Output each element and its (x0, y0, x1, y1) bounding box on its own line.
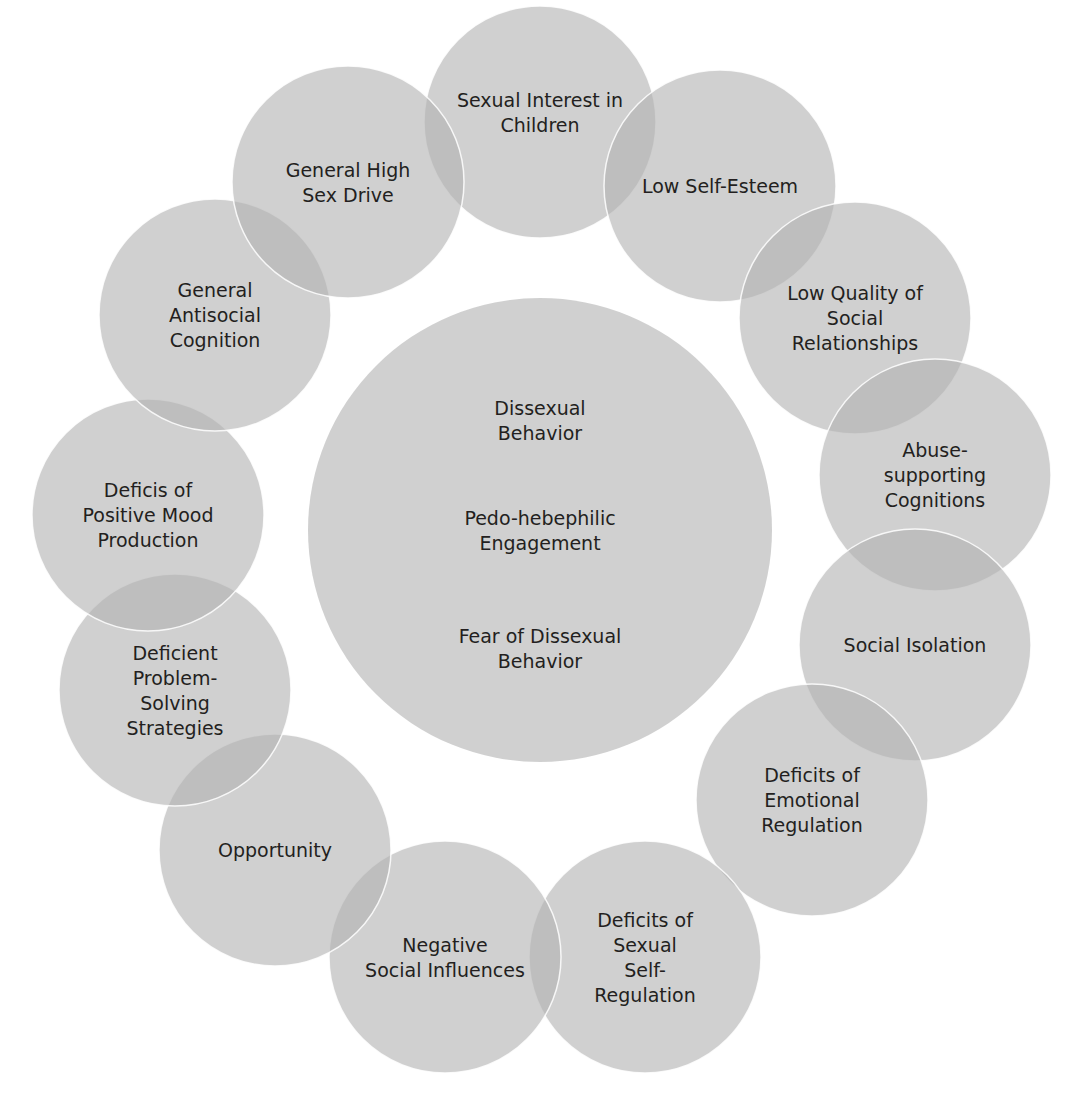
factor-label-general-antisocial-cognition: Cognition (170, 329, 261, 351)
factor-label-sexual-interest-in-children: Sexual Interest in (457, 89, 623, 111)
factor-label-deficits-sexual-self-regulation: Self- (624, 959, 666, 981)
factor-label-deficits-sexual-self-regulation: Deficits of (597, 909, 694, 931)
dissexual-behavior-factor-diagram: DissexualBehaviorPedo-hebephilicEngageme… (0, 0, 1084, 1098)
factor-label-deficient-problem-solving: Problem- (133, 667, 218, 689)
center-label-line: Behavior (498, 422, 583, 444)
factor-circle-general-high-sex-drive (232, 66, 464, 298)
factor-label-opportunity: Opportunity (218, 839, 332, 861)
center-label-line: Engagement (479, 532, 600, 554)
factor-label-deficient-problem-solving: Deficient (132, 642, 217, 664)
factor-label-deficits-emotional-regulation: Regulation (761, 814, 862, 836)
factor-circle-deficits-sexual-self-regulation (529, 841, 761, 1073)
factor-label-deficits-emotional-regulation: Deficits of (764, 764, 861, 786)
factor-label-deficits-sexual-self-regulation: Regulation (594, 984, 695, 1006)
factor-label-deficits-sexual-self-regulation: Sexual (613, 934, 677, 956)
center-label-line: Pedo-hebephilic (464, 507, 615, 529)
factor-label-deficits-positive-mood: Positive Mood (83, 504, 214, 526)
center-label-line: Dissexual (494, 397, 585, 419)
factor-label-deficits-positive-mood: Deficis of (104, 479, 194, 501)
factor-label-general-high-sex-drive: General High (286, 159, 411, 181)
factor-label-sexual-interest-in-children: Children (500, 114, 579, 136)
factor-label-deficits-emotional-regulation: Emotional (764, 789, 859, 811)
center-label-line: Fear of Dissexual (459, 625, 622, 647)
factor-label-low-quality-social-relationships: Relationships (792, 332, 919, 354)
factor-label-low-quality-social-relationships: Social (827, 307, 883, 329)
factor-label-deficits-positive-mood: Production (97, 529, 198, 551)
factor-label-negative-social-influences: Negative (402, 934, 487, 956)
factor-label-general-antisocial-cognition: General (178, 279, 253, 301)
factor-label-low-self-esteem: Low Self-Esteem (642, 175, 798, 197)
center-node: DissexualBehaviorPedo-hebephilicEngageme… (308, 298, 772, 762)
factor-label-deficient-problem-solving: Strategies (126, 717, 223, 739)
factor-label-social-isolation: Social Isolation (844, 634, 987, 656)
center-circle (308, 298, 772, 762)
factor-label-negative-social-influences: Social Influences (365, 959, 525, 981)
factor-label-low-quality-social-relationships: Low Quality of (787, 282, 924, 304)
factor-label-deficient-problem-solving: Solving (140, 692, 210, 714)
factor-label-abuse-supporting-cognitions: supporting (884, 464, 986, 486)
factor-label-abuse-supporting-cognitions: Abuse- (902, 439, 968, 461)
factor-label-general-antisocial-cognition: Antisocial (169, 304, 261, 326)
center-label-line: Behavior (498, 650, 583, 672)
factor-label-abuse-supporting-cognitions: Cognitions (885, 489, 986, 511)
factor-label-general-high-sex-drive: Sex Drive (302, 184, 393, 206)
